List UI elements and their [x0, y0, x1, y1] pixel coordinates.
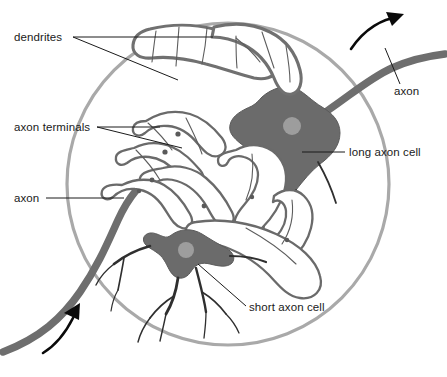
- short-axon-cell-nucleus: [178, 242, 194, 258]
- label-dendrites: dendrites: [14, 31, 62, 43]
- flow-arrow-top-right: [351, 12, 404, 49]
- neuron-diagram: dendrites axon terminals axon long axon …: [0, 0, 447, 377]
- axon-terminal-bouton-1: [175, 131, 180, 136]
- axon-terminal-bouton-2: [162, 149, 167, 154]
- loop-bouton-1: [250, 195, 254, 199]
- long-axon-cell-nucleus: [283, 117, 301, 135]
- axon-terminal-bouton-3: [150, 178, 155, 183]
- diagram-canvas: dendrites axon terminals axon long axon …: [0, 0, 447, 377]
- label-axon-right: axon: [394, 85, 419, 97]
- label-axon-terminals: axon terminals: [14, 121, 90, 133]
- axon-terminal-bouton-5: [137, 189, 141, 193]
- axon-terminal-bouton-4: [202, 204, 207, 209]
- loop-bouton-2: [285, 238, 289, 242]
- label-short-axon-cell: short axon cell: [249, 301, 325, 313]
- label-axon-left: axon: [14, 192, 39, 204]
- label-long-axon-cell: long axon cell: [349, 146, 421, 158]
